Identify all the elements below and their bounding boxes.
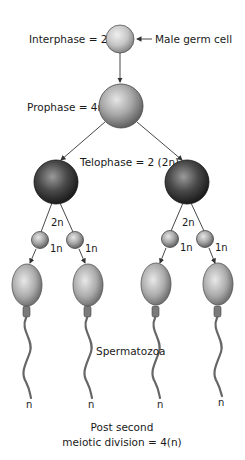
onen-label-4: 1n [215, 242, 228, 253]
onen-label-3: 1n [180, 242, 193, 253]
post-division-line1: Post second [91, 421, 154, 433]
onen-label-2: 1n [85, 243, 98, 254]
right-2n-label: 2n [182, 217, 195, 228]
secondary-cell-1 [32, 232, 49, 249]
n-label-4: n [218, 397, 224, 408]
spermatogenesis-diagram: Interphase = 2n Male germ cell Prophase … [0, 0, 245, 460]
post-division-line2: meiotic division = 4(n) [62, 436, 181, 448]
arrow-to-right-telophase [137, 122, 182, 160]
onen-label-1: 1n [50, 243, 63, 254]
telophase-cell-left [34, 160, 78, 204]
germ-cell [106, 25, 134, 53]
n-label-2: n [88, 399, 94, 410]
secondary-cell-3 [162, 231, 179, 248]
secondary-cell-2 [67, 232, 84, 249]
telophase-cell-right [165, 160, 209, 204]
secondary-cell-4 [197, 231, 214, 248]
spermatozoon-2 [73, 264, 103, 398]
spermatozoa-label: Spermatozoa [96, 345, 166, 357]
arrow-to-left-telophase [61, 122, 105, 160]
spermatozoon-1 [12, 264, 42, 398]
arrow-to-sperm-1 [30, 249, 36, 263]
prophase-label: Prophase = 4n [27, 101, 104, 113]
arrow-to-sperm-3 [160, 248, 166, 263]
spermatozoon-3 [141, 263, 171, 398]
male-germ-cell-label: Male germ cell [155, 33, 232, 45]
spermatozoon-4 [203, 263, 233, 396]
interphase-label: Interphase = 2n [29, 33, 114, 45]
n-label-3: n [157, 399, 163, 410]
telophase-label: Telophase = 2 (2n) [79, 156, 179, 168]
n-label-1: n [26, 399, 32, 410]
prophase-cell [99, 84, 143, 128]
left-2n-label: 2n [51, 217, 64, 228]
